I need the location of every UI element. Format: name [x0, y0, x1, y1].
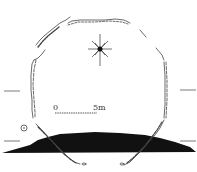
wall-upper-left — [36, 17, 70, 45]
scale-bar-end-label: 5m — [93, 104, 106, 112]
site-plan-drawing — [0, 0, 197, 172]
small-feature-marker — [21, 125, 27, 131]
wall-top — [68, 19, 130, 23]
section-profile — [2, 132, 196, 153]
north-arrow-icon — [88, 34, 112, 66]
scale-bar-start-label: 0 — [53, 104, 58, 112]
wall-upper-right — [140, 30, 146, 37]
wall-right — [164, 62, 165, 118]
